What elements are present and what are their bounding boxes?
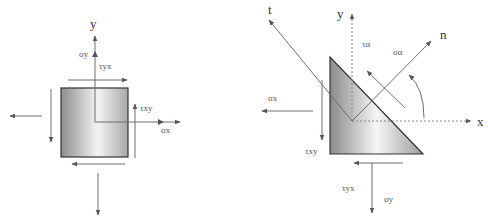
right-sigma-x-label: σx xyxy=(268,93,278,103)
n-axis-label: n xyxy=(440,27,447,42)
right-sigma-y-label: σy xyxy=(384,194,394,204)
left-y-axis-label: y xyxy=(90,16,97,31)
left-tau-xy-label: τxy xyxy=(140,103,153,113)
left-stress-element: y σy τyx τxy σx xyxy=(10,16,180,215)
left-sigma-x-label: σx xyxy=(161,125,171,135)
right-inclined-element: t y n x τα σα σx τxy τyx σy xyxy=(262,2,484,213)
n-axis-line xyxy=(352,41,431,121)
sigma-y-arrowhead-icon xyxy=(92,51,98,57)
sigma-alpha-label: σα xyxy=(393,47,403,57)
right-tau-xy-label: τxy xyxy=(305,146,318,156)
left-sigma-y-label: σy xyxy=(79,49,89,59)
left-tau-yx-label: τyx xyxy=(99,61,112,71)
t-axis-label: t xyxy=(268,2,272,17)
stress-diagram-figure: y σy τyx τxy σx t y n x τα σα σx xyxy=(0,0,488,220)
right-x-axis-label: x xyxy=(477,114,484,129)
right-y-axis-label: y xyxy=(337,6,344,21)
right-tau-yx-label: τyx xyxy=(342,183,355,193)
angle-alpha-arc xyxy=(409,75,424,118)
tau-alpha-label: τα xyxy=(362,39,371,49)
element-triangle xyxy=(330,57,423,154)
